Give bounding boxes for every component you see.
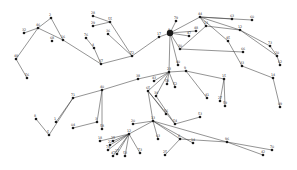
graph-node: 47	[111, 151, 115, 158]
node-label: 65	[146, 86, 150, 90]
node-dot	[23, 32, 26, 35]
node-label: 68	[50, 36, 54, 40]
graph-node: 2	[49, 13, 52, 20]
node-label: 58	[165, 79, 169, 83]
node-dot	[177, 64, 180, 67]
graph-node: 66	[241, 47, 245, 54]
edge	[242, 66, 273, 78]
node-label: 44	[198, 12, 202, 16]
node-dot	[205, 25, 208, 28]
node-label: 73	[138, 148, 142, 152]
node-label: 55	[108, 17, 112, 21]
node-label: 52	[173, 82, 177, 86]
graph-node: 59	[223, 101, 227, 107]
node-dot	[101, 89, 104, 92]
edge	[206, 26, 240, 30]
graph-node: 74	[106, 145, 110, 152]
node-dot	[272, 77, 275, 80]
node-label: 48	[14, 54, 18, 58]
node-dot	[72, 127, 75, 130]
node-dot	[48, 134, 51, 137]
graph-node: 32	[22, 28, 26, 35]
node-label: 8	[34, 114, 36, 118]
node-label: 6	[178, 134, 180, 138]
node-dot	[199, 116, 202, 119]
node-label: 12	[238, 25, 242, 29]
node-dot	[175, 20, 178, 23]
node-dot	[269, 45, 272, 48]
graph-node: 71	[71, 93, 75, 99]
node-label: 40	[176, 60, 180, 64]
node-dot	[116, 153, 119, 156]
node-dot	[262, 154, 265, 157]
node-label: 32	[22, 28, 26, 32]
node-dot	[164, 154, 167, 157]
node-dot	[199, 16, 202, 19]
node-label: 12	[127, 129, 131, 133]
node-label: 74	[106, 145, 110, 149]
node-dot	[37, 27, 40, 30]
edge	[186, 71, 224, 79]
node-dot	[271, 149, 274, 152]
node-dot	[251, 19, 254, 22]
node-label: 20	[275, 51, 279, 55]
edge	[102, 79, 138, 90]
edge	[180, 26, 206, 49]
edge	[16, 28, 38, 59]
graph-node: 53	[123, 151, 127, 158]
node-label: 40	[100, 85, 104, 89]
graph-node: 43	[152, 76, 156, 82]
node-dot	[152, 120, 155, 123]
node-dot	[107, 33, 110, 36]
node-dot	[179, 138, 182, 141]
node-label: 53	[123, 151, 127, 155]
nodes-layer: 8177237476552829362324616684856794463601…	[14, 11, 282, 158]
node-label: 14	[271, 73, 275, 77]
node-label: 62	[278, 60, 282, 64]
node-dot	[128, 133, 131, 136]
node-label: 48	[194, 26, 198, 30]
node-dot	[242, 51, 245, 54]
node-dot	[192, 142, 195, 145]
node-label: 71	[71, 93, 75, 97]
graph-node: 14	[271, 73, 275, 79]
node-label: 3	[95, 117, 97, 121]
node-label: 27	[115, 149, 119, 153]
edge	[132, 37, 159, 56]
graph-node: 29	[91, 21, 95, 28]
node-label: 46	[36, 23, 40, 27]
node-label: 33	[240, 61, 244, 65]
node-dot	[137, 78, 140, 81]
graph-node: 17	[157, 32, 161, 39]
graph-node: 63	[230, 14, 234, 21]
node-dot	[92, 15, 95, 18]
edge	[180, 139, 227, 142]
node-label: 04	[71, 123, 75, 127]
node-label: 5	[47, 130, 49, 134]
node-label: 13	[204, 21, 208, 25]
node-dot	[15, 58, 18, 61]
graph-node: 76	[84, 33, 88, 40]
graph-node: 12	[238, 25, 242, 32]
graph-node: 14	[191, 138, 195, 145]
node-dot	[155, 95, 158, 98]
graph-node: 63	[156, 134, 160, 141]
graph-node: 45	[226, 36, 230, 43]
node-dot	[174, 123, 177, 126]
node-dot	[85, 37, 88, 40]
edge	[175, 117, 200, 124]
node-label: 22	[108, 140, 112, 144]
node-dot	[165, 113, 168, 116]
graph-node: 5	[47, 130, 50, 137]
graph-node: 27	[218, 96, 222, 102]
node-dot	[223, 78, 226, 81]
graph-node: 20	[275, 51, 279, 58]
node-dot	[241, 65, 244, 68]
node-dot	[174, 86, 177, 89]
node-dot	[227, 40, 230, 43]
graph-node: 62	[278, 60, 282, 67]
node-dot	[35, 118, 38, 121]
edge	[49, 98, 73, 135]
node-dot	[166, 83, 169, 86]
node-label: 13	[151, 116, 155, 120]
